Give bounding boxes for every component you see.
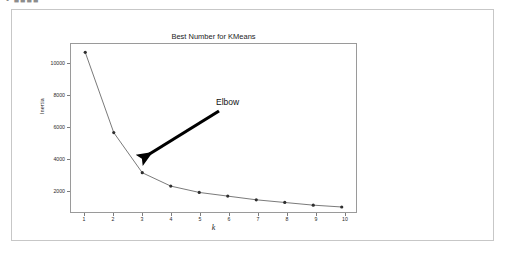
x-tick-label-8: 8 [279, 216, 295, 222]
figure-card: Best Number for KMeans Inertia k 2000 40… [11, 9, 494, 241]
chart-title: Best Number for KMeans [70, 32, 357, 42]
x-tick-mark [316, 213, 317, 216]
x-tick-label-3: 3 [134, 216, 150, 222]
y-tick-8000: 8000 [12, 92, 65, 98]
x-tick-label-2: 2 [105, 216, 121, 222]
inertia-line-chart [71, 44, 356, 212]
x-tick-label-4: 4 [163, 216, 179, 222]
data-point-k-6 [226, 195, 229, 198]
x-axis-label: k [70, 223, 357, 232]
data-point-k-4 [169, 184, 172, 187]
data-point-k-10 [340, 205, 343, 208]
x-tick-mark [84, 213, 85, 216]
data-point-k-8 [283, 201, 286, 204]
x-tick-mark [345, 213, 346, 216]
data-point-k-3 [141, 171, 144, 174]
x-tick-mark [113, 213, 114, 216]
x-tick-label-5: 5 [192, 216, 208, 222]
y-tick-label: 6000 [53, 124, 65, 130]
data-point-k-2 [112, 131, 115, 134]
screenshot-root: • ■■■■ Best Number for KMeans Inertia k … [0, 0, 510, 254]
y-tick-4000: 4000 [12, 156, 65, 162]
y-tick-label: 8000 [53, 92, 65, 98]
x-tick-mark [229, 213, 230, 216]
y-tick-10000: 10000 [12, 60, 65, 66]
x-tick-label-10: 10 [337, 216, 353, 222]
x-tick-mark [171, 213, 172, 216]
y-tick-label: 2000 [53, 188, 65, 194]
series-markers [84, 51, 344, 209]
x-tick-label-9: 9 [308, 216, 324, 222]
elbow-label: Elbow [216, 97, 239, 107]
plot-area [70, 43, 357, 213]
x-tick-label-7: 7 [250, 216, 266, 222]
x-tick-mark [287, 213, 288, 216]
x-tick-label-6: 6 [221, 216, 237, 222]
clipped-top-text: • ■■■■ [6, 0, 66, 5]
y-tick-2000: 2000 [12, 188, 65, 194]
data-point-k-7 [255, 198, 258, 201]
data-point-k-9 [312, 204, 315, 207]
y-axis-label: Inertia [39, 98, 45, 114]
data-point-k-5 [198, 191, 201, 194]
y-tick-label: 4000 [53, 156, 65, 162]
x-tick-mark [258, 213, 259, 216]
x-tick-mark [142, 213, 143, 216]
x-tick-mark [200, 213, 201, 216]
y-tick-6000: 6000 [12, 124, 65, 130]
x-tick-label-1: 1 [76, 216, 92, 222]
data-point-k-1 [84, 51, 87, 54]
y-tick-label: 10000 [51, 60, 65, 66]
series-line-inertia [85, 52, 342, 207]
